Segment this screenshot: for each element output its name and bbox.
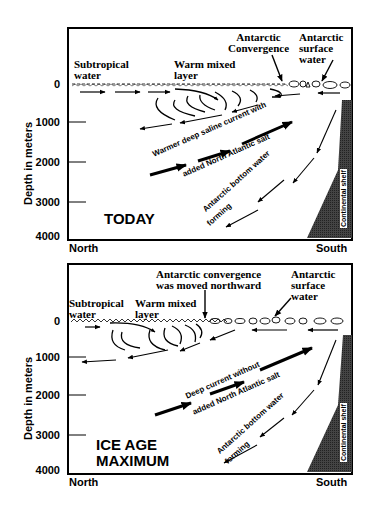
panel-ice-age: Depth in meters 0 1000 2000 3000 4000 No… xyxy=(0,0,373,515)
label-convergence: Antarctic convergencewas moved northward xyxy=(156,269,261,291)
mixing-arcs xyxy=(110,323,202,350)
era-label-ice-age: ICE AGEMAXIMUM xyxy=(96,437,169,469)
tick-0: 0 xyxy=(20,316,60,327)
tick-3000: 3000 xyxy=(20,430,60,441)
surface-arrows xyxy=(85,327,338,340)
pointer-arrows xyxy=(205,290,291,318)
tick-4000: 4000 xyxy=(20,465,60,476)
tick-1000: 1000 xyxy=(20,352,60,363)
depth-ticks xyxy=(69,357,86,435)
x-label-south: South xyxy=(316,477,347,488)
x-label-north: North xyxy=(69,477,98,488)
label-subtropical: Subtropicalwater xyxy=(69,298,124,320)
deep-current-arrows xyxy=(155,348,312,415)
label-antarctic-surface: Antarcticsurfacewater xyxy=(291,269,335,302)
ice-floes xyxy=(210,317,343,324)
label-warm-mixed: Warm mixedlayer xyxy=(135,298,196,320)
tick-2000: 2000 xyxy=(20,390,60,401)
return-arrows xyxy=(82,343,200,362)
label-continental-shelf: Continental shelf xyxy=(340,403,347,462)
